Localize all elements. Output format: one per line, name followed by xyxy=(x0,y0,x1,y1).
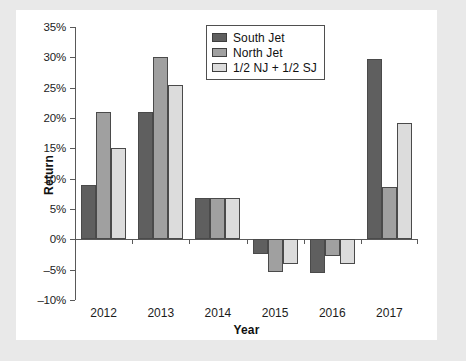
y-axis-tick xyxy=(70,118,75,119)
y-axis-tick xyxy=(70,270,75,271)
bar xyxy=(96,112,111,239)
x-axis-title: Year xyxy=(75,323,418,337)
y-axis-tick-label: 15% xyxy=(44,142,66,154)
x-axis-tick xyxy=(361,239,362,244)
bar xyxy=(382,187,397,240)
bar xyxy=(310,239,325,272)
y-axis-tick-label: 5% xyxy=(50,203,66,215)
x-axis-tick xyxy=(417,239,418,244)
bar xyxy=(153,57,168,239)
bar xyxy=(397,123,412,239)
chart-legend: South JetNorth Jet1/2 NJ + 1/2 SJ xyxy=(206,25,325,80)
y-axis-tick xyxy=(70,88,75,89)
legend-item-label: North Jet xyxy=(233,46,283,60)
legend-swatch-icon xyxy=(212,33,227,42)
legend-item: 1/2 NJ + 1/2 SJ xyxy=(212,60,317,75)
x-axis-tick xyxy=(189,239,190,244)
y-axis-tick xyxy=(70,209,75,210)
x-axis-category-label: 2012 xyxy=(90,306,117,320)
bar xyxy=(210,198,225,239)
y-axis-tick-label: 25% xyxy=(44,82,66,94)
x-axis-category-label: 2015 xyxy=(262,306,289,320)
y-axis-tick-labels: 35%30%25%20%15%10%5%0%–5%–10% xyxy=(6,27,66,300)
legend-item-label: 1/2 NJ + 1/2 SJ xyxy=(233,61,317,75)
legend-item: South Jet xyxy=(212,30,317,45)
bar xyxy=(340,239,355,264)
x-axis-category-label: 2016 xyxy=(319,306,346,320)
bar xyxy=(325,239,340,255)
legend-item: North Jet xyxy=(212,45,317,60)
bar xyxy=(195,198,210,239)
y-axis-tick-label: –10% xyxy=(37,294,66,306)
bar xyxy=(283,239,298,263)
bar xyxy=(111,148,126,239)
y-axis-tick xyxy=(70,148,75,149)
x-axis-tick xyxy=(75,239,76,244)
legend-swatch-icon xyxy=(212,48,227,57)
bar xyxy=(81,185,96,240)
x-axis-tick xyxy=(132,239,133,244)
y-axis-tick-label: –5% xyxy=(44,264,66,276)
y-axis-tick-label: 20% xyxy=(44,112,66,124)
bar xyxy=(168,85,183,239)
legend-item-label: South Jet xyxy=(233,31,285,45)
x-axis-tick xyxy=(304,239,305,244)
y-axis-tick-label: 10% xyxy=(44,173,66,185)
y-axis-tick xyxy=(70,57,75,58)
y-axis-tick xyxy=(70,179,75,180)
y-axis-line xyxy=(75,27,76,300)
bar xyxy=(268,239,283,272)
x-axis-category-label: 2014 xyxy=(205,306,232,320)
x-axis-category-label: 2013 xyxy=(147,306,174,320)
x-axis-category-label: 2017 xyxy=(376,306,403,320)
bar xyxy=(138,112,153,239)
y-axis-tick xyxy=(70,300,75,301)
bar xyxy=(253,239,268,254)
bar xyxy=(225,198,240,239)
legend-swatch-icon xyxy=(212,63,227,72)
chart-panel: Return 35%30%25%20%15%10%5%0%–5%–10% 201… xyxy=(16,10,437,340)
bar xyxy=(367,59,382,239)
y-axis-tick-label: 35% xyxy=(44,21,66,33)
y-axis-tick-label: 0% xyxy=(50,233,66,245)
x-axis-tick xyxy=(247,239,248,244)
y-axis-tick xyxy=(70,27,75,28)
chart-page: Return 35%30%25%20%15%10%5%0%–5%–10% 201… xyxy=(0,0,466,361)
y-axis-tick-label: 30% xyxy=(44,51,66,63)
